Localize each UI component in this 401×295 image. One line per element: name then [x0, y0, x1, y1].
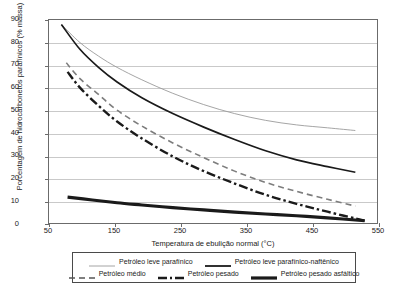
plot-area — [48, 19, 378, 224]
y-axis-title: Porcentagem de hidrocarbonetos parafínic… — [15, 2, 24, 192]
x-tick-label-450: 450 — [297, 227, 327, 235]
y-tick-label-10: 10 — [0, 197, 19, 205]
x-tick-50 — [49, 223, 50, 227]
legend-item-leve-parafinico-naftenico[interactable]: Petróleo leve parafínico-naftênico — [205, 257, 339, 267]
legend-item-pesado[interactable]: Petróleo pesado — [158, 269, 239, 279]
legend-swatch-dash-dot-black — [158, 269, 184, 279]
series-line-pesado-asfaltico — [68, 197, 365, 221]
legend-item-medio[interactable]: Petróleo médio — [69, 269, 146, 279]
legend-swatch-dashed-gray — [69, 269, 95, 279]
y-tick-label-40: 40 — [0, 129, 19, 137]
series-line-leve-parafinico — [61, 25, 355, 131]
legend-row-1: Petróleo leve parafínico Petróleo leve p… — [77, 256, 351, 268]
legend-swatch-thick-solid-black — [251, 269, 277, 279]
y-tick-label-30: 30 — [0, 151, 19, 159]
x-tick-350 — [247, 223, 248, 227]
legend-label-leve-parafinico: Petróleo leve parafínico — [119, 258, 193, 266]
legend-swatch-medium-solid-black — [205, 257, 231, 267]
legend-item-pesado-asfaltico[interactable]: Petróleo pesado asfáltico — [251, 269, 360, 279]
y-tick-label-0: 0 — [0, 220, 19, 228]
series-line-medio — [66, 63, 355, 206]
x-tick-550 — [379, 223, 380, 227]
y-tick-label-80: 80 — [0, 38, 19, 46]
x-tick-250 — [181, 223, 182, 227]
chart-figure: Porcentagem de hidrocarbonetos parafínic… — [0, 0, 401, 295]
x-tick-450 — [313, 223, 314, 227]
series-line-pesado — [68, 72, 365, 221]
x-tick-label-150: 150 — [99, 227, 129, 235]
legend-swatch-thin-solid-gray — [89, 257, 115, 267]
series-line-leve-parafinico-naftenico — [61, 25, 355, 173]
y-tick-label-70: 70 — [0, 60, 19, 68]
x-tick-label-250: 250 — [165, 227, 195, 235]
x-axis-title: Temperatura de ebulição normal (°C) — [48, 239, 378, 248]
y-tick-label-50: 50 — [0, 106, 19, 114]
x-tick-label-50: 50 — [33, 227, 63, 235]
x-tick-150 — [115, 223, 116, 227]
legend-label-leve-parafinico-naftenico: Petróleo leve parafínico-naftênico — [235, 258, 339, 266]
legend-item-leve-parafinico[interactable]: Petróleo leve parafínico — [89, 257, 193, 267]
legend-label-pesado-asfaltico: Petróleo pesado asfáltico — [281, 270, 360, 278]
legend-label-medio: Petróleo médio — [99, 270, 146, 278]
y-tick-label-20: 20 — [0, 174, 19, 182]
chart-legend: Petróleo leve parafínico Petróleo leve p… — [72, 252, 356, 283]
legend-row-2: Petróleo médio Petróleo pesado Petróleo … — [77, 268, 351, 280]
y-tick-label-60: 60 — [0, 83, 19, 91]
x-tick-label-350: 350 — [231, 227, 261, 235]
x-tick-label-550: 550 — [363, 227, 393, 235]
series-canvas — [49, 20, 377, 223]
y-tick-label-90: 90 — [0, 15, 19, 23]
legend-label-pesado: Petróleo pesado — [188, 270, 239, 278]
